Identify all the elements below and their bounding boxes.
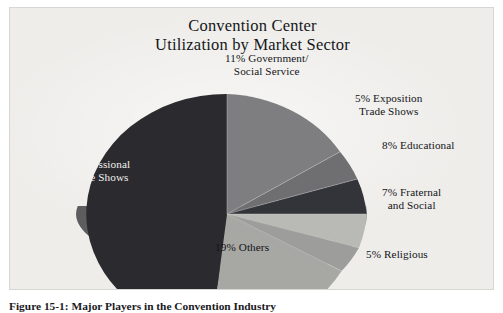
label-government-line-2: Social Service	[225, 65, 308, 78]
chart-panel: Convention Center Utilization by Market …	[9, 7, 494, 290]
label-fraternal-line-1: 7% Fraternal	[382, 186, 441, 198]
label-professional-line-2: and Trade Shows	[50, 171, 130, 184]
pie-slices	[86, 94, 366, 290]
figure-caption: Figure 15-1: Major Players in the Conven…	[9, 299, 479, 313]
label-educational: 8% Educational	[382, 139, 455, 152]
label-exposition: 5% Exposition Trade Shows	[355, 92, 423, 117]
label-religious: 5% Religious	[366, 248, 428, 261]
label-government: 11% Government/ Social Service	[225, 52, 308, 77]
label-exposition-line-2: Trade Shows	[355, 105, 423, 118]
label-fraternal-line-2: and Social	[382, 199, 441, 212]
pie-slice-professional[interactable]	[86, 94, 227, 290]
label-professional: 45% Professional and Trade Shows	[50, 158, 130, 185]
label-professional-line-1: 45% Professional	[50, 158, 130, 170]
label-others: 19% Others	[215, 241, 269, 254]
figure-root: Convention Center Utilization by Market …	[0, 0, 503, 313]
label-government-line-1: 11% Government/	[225, 52, 308, 64]
label-fraternal: 7% Fraternal and Social	[382, 186, 441, 211]
label-exposition-line-1: 5% Exposition	[355, 92, 423, 104]
